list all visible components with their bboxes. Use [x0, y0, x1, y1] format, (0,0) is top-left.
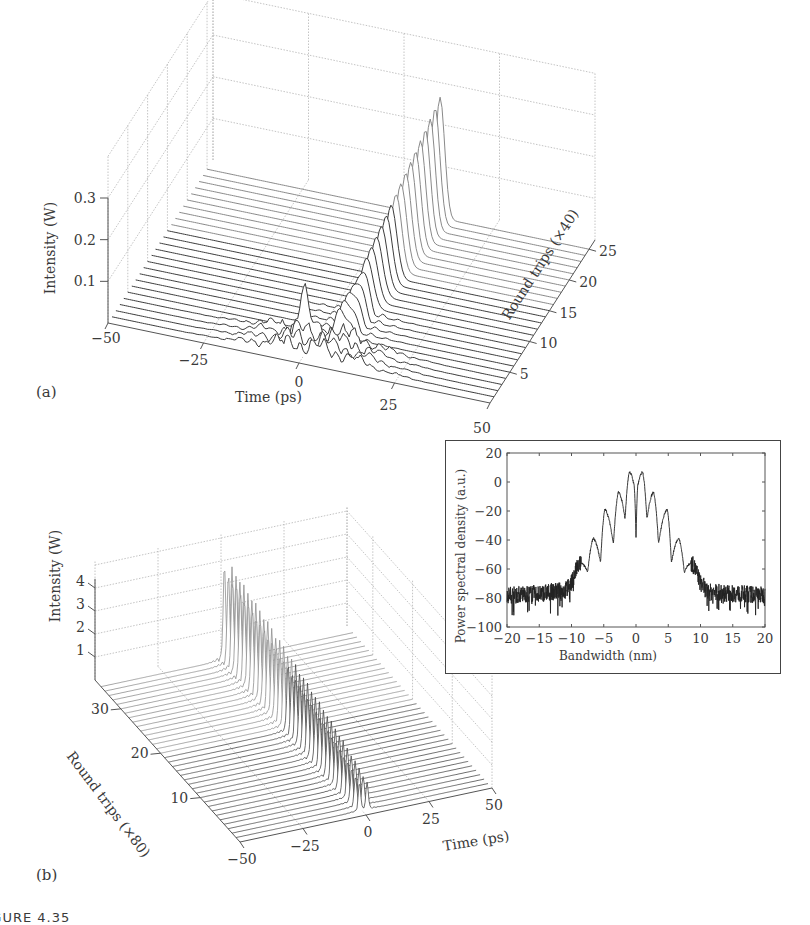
y-tick	[151, 753, 161, 754]
z-tick-label: 0.1	[74, 273, 96, 289]
y-tick	[510, 372, 517, 374]
panel-b-label: (b)	[36, 866, 57, 884]
y-tick-label: 15	[559, 305, 577, 321]
y-tick-label: −20	[475, 504, 502, 519]
x-tick	[429, 802, 433, 808]
z-tick-label: 4	[76, 573, 85, 589]
z-tick-label: 1	[76, 642, 85, 658]
z-tick-label: 2	[76, 619, 85, 635]
x-tick-label: 0	[295, 374, 304, 390]
x-tick-label: −25	[290, 838, 320, 854]
z-tick-label: 0.2	[74, 232, 96, 248]
x-tick-label: 50	[485, 797, 503, 813]
x-tick	[201, 343, 204, 349]
x-tick-label: 25	[422, 811, 440, 827]
x-tick	[366, 815, 370, 821]
y-tick	[530, 341, 537, 343]
x-tick-label: 5	[664, 631, 672, 646]
y-tick	[111, 709, 121, 710]
panel-a-x-axis-label: Time (ps)	[235, 389, 302, 405]
grid-line	[108, 77, 213, 240]
y-tick-label: 0	[494, 475, 502, 490]
panel-a-plot-group: 0.10.20.3−50−2502550510152025	[74, 0, 617, 436]
x-tick-label: −25	[179, 352, 209, 368]
inset-spectrum-plot: 200−20−40−60−80−100−20−15−10−505101520	[446, 441, 780, 673]
x-tick-label: 15	[724, 631, 741, 646]
panel-b-plot-group: 1234102030−50−2502550	[76, 506, 503, 867]
panel-a-label: (a)	[36, 383, 57, 401]
y-tick-label: 25	[599, 243, 617, 259]
x-tick-label: −15	[526, 631, 553, 646]
x-tick	[392, 383, 395, 389]
inset-x-axis-label: Bandwidth (nm)	[559, 649, 657, 663]
y-tick-label: 10	[540, 335, 558, 351]
y-tick-label: 10	[170, 790, 188, 806]
y-tick-label: 30	[91, 701, 109, 717]
z-tick	[88, 606, 95, 611]
inset-y-axis-label: Power spectral density (a.u.)	[454, 461, 468, 651]
grid-line	[108, 35, 213, 198]
x-tick	[492, 788, 496, 794]
panel-b-z-axis-label: Intensity (W)	[47, 521, 63, 631]
y-tick-label: 20	[579, 274, 597, 290]
x-tick-label: 0	[364, 824, 373, 840]
y-tick-label: −80	[475, 591, 502, 606]
z-tick-label: 0.3	[74, 190, 96, 206]
panel-a-z-axis-label: Intensity (W)	[42, 188, 58, 308]
z-tick-label: 3	[76, 596, 85, 612]
z-tick	[88, 652, 95, 657]
inset-spectrum-panel: 200−20−40−60−80−100−20−15−10−505101520 P…	[445, 440, 781, 674]
x-tick-label: −50	[227, 851, 257, 867]
x-tick-label: 25	[380, 397, 398, 413]
x-tick	[105, 323, 108, 329]
x-tick-label: −50	[91, 330, 121, 346]
y-tick	[549, 311, 556, 313]
x-tick-label: −5	[594, 631, 613, 646]
figure-caption-fragment: FIGURE 4.35	[0, 910, 70, 925]
x-tick-label: −20	[493, 631, 520, 646]
x-tick-label: 0	[632, 631, 640, 646]
x-tick-label: 10	[692, 631, 709, 646]
x-tick	[296, 363, 299, 369]
y-tick-label: 20	[131, 745, 149, 761]
x-tick	[303, 829, 307, 835]
grid-line	[108, 0, 213, 156]
x-tick	[240, 842, 244, 848]
y-tick-label: 20	[485, 446, 502, 461]
y-tick	[589, 249, 596, 251]
y-tick-label: −60	[475, 562, 502, 577]
z-tick	[88, 629, 95, 634]
x-tick	[487, 403, 490, 409]
y-tick-label: 5	[520, 366, 529, 382]
x-tick-label: −10	[558, 631, 585, 646]
y-tick-label: −40	[475, 533, 502, 548]
y-tick	[190, 798, 200, 799]
z-tick	[88, 583, 95, 588]
x-tick-label: 20	[757, 631, 774, 646]
y-tick	[569, 280, 576, 282]
x-tick-label: 50	[473, 420, 491, 436]
